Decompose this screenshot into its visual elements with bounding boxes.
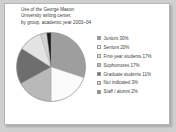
legend-swatch-icon [97,45,101,49]
legend-swatch-icon [97,54,101,58]
legend-item-label: Juniors 30% [104,36,129,41]
legend-swatch-icon [97,72,101,76]
legend-item-label: Sophomores 17% [104,63,140,68]
pie-slice-group [16,33,85,102]
pie-chart-svg [16,31,86,103]
legend-item-label: Seniors 20% [104,45,130,50]
legend-item: Graduate students 11% [97,70,170,79]
legend-swatch-icon [97,36,101,40]
pie-chart [16,31,86,103]
legend-swatch-icon [97,63,101,67]
chart-title-line-3: by group, academic year 2003–04 [21,20,107,26]
legend-item-label: Not indicated 3% [104,80,138,85]
legend-item: Juniors 30% [97,34,170,43]
legend-item-label: First-year students 17% [104,54,152,59]
legend-item: Seniors 20% [97,43,170,52]
legend-item: Staff / alumni 2% [97,87,170,96]
legend-item: Sophomores 17% [97,61,170,70]
figure-panel: Use of the George Mason University writi… [4,3,170,125]
legend-item-label: Staff / alumni 2% [104,89,138,94]
chart-title: Use of the George Mason University writi… [21,7,107,26]
legend-item: First-year students 17% [97,52,170,61]
legend-swatch-icon [97,90,101,94]
legend-item-label: Graduate students 11% [104,72,151,77]
chart-legend: Juniors 30%Seniors 20%First-year student… [97,34,170,96]
legend-item: Not indicated 3% [97,78,170,87]
legend-swatch-icon [97,81,101,85]
